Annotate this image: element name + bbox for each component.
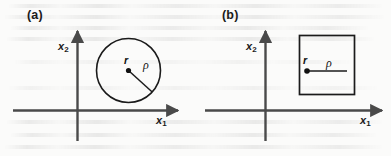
x1-axis-label: x1 <box>156 114 167 128</box>
x1-axis-label: x1 <box>360 114 371 128</box>
radius-segment <box>129 71 153 93</box>
panel-a-axes-and-shape <box>0 0 196 156</box>
x2-axis-label: x2 <box>246 40 257 54</box>
center-point-label: r <box>124 54 128 66</box>
center-point-dot <box>126 68 131 73</box>
center-point-dot <box>304 68 310 74</box>
radius-label: ρ <box>326 56 332 71</box>
panel-b-axes-and-shape <box>195 0 391 156</box>
panel-a: (a) x2 x1 r ρ <box>0 0 196 156</box>
panel-b: (b) x2 x1 r ρ <box>195 0 391 156</box>
center-point-label: r <box>303 54 307 66</box>
x2-axis-label: x2 <box>58 40 69 54</box>
figure-container: (a) x2 x1 r ρ <box>0 0 391 156</box>
radius-label: ρ <box>143 58 149 73</box>
